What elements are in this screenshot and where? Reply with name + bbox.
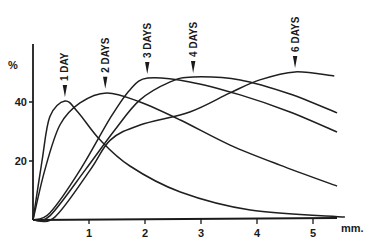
arrow-down-icon: [293, 56, 297, 68]
x-axis-label: mm.: [341, 222, 364, 234]
x-axis: [33, 218, 337, 220]
x-ticks: 12345: [86, 219, 316, 239]
x-tick-label: 4: [254, 227, 261, 239]
annotation-label: 1 DAY: [59, 52, 70, 81]
arrow-down-icon: [145, 62, 149, 74]
arrow-down-icon: [103, 77, 107, 89]
y-axis-label: %: [8, 59, 18, 71]
line-chart: 2040 12345 % mm. 1 DAY2 DAYS3 DAYS4 DAYS…: [0, 0, 370, 244]
annotation-2-days: 2 DAYS: [100, 37, 111, 89]
x-tick-label: 1: [86, 227, 92, 239]
x-tick-label: 2: [142, 227, 148, 239]
y-tick-label: 20: [15, 155, 27, 167]
arrow-down-icon: [63, 85, 67, 97]
curve-3-days: [33, 78, 337, 220]
y-tick-label: 40: [15, 96, 27, 108]
annotation-label: 6 DAYS: [290, 16, 301, 52]
annotation-1-day: 1 DAY: [59, 52, 70, 97]
curve-1-day: [33, 101, 345, 220]
annotation-label: 2 DAYS: [100, 37, 111, 73]
annotations: 1 DAY2 DAYS3 DAYS4 DAYS6 DAYS: [59, 16, 300, 97]
annotation-label: 3 DAYS: [142, 23, 153, 59]
curve-4-days: [33, 77, 337, 221]
annotation-4-days: 4 DAYS: [188, 21, 199, 73]
curves: [33, 72, 345, 222]
y-ticks: 2040: [15, 96, 33, 167]
annotation-3-days: 3 DAYS: [142, 23, 153, 75]
arrow-down-icon: [191, 61, 195, 73]
x-tick-label: 5: [310, 227, 316, 239]
annotation-6-days: 6 DAYS: [290, 16, 301, 68]
x-tick-label: 3: [198, 227, 204, 239]
annotation-label: 4 DAYS: [188, 21, 199, 57]
